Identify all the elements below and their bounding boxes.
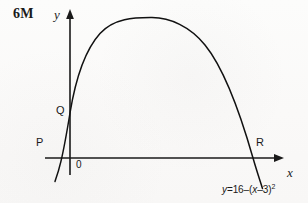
point-label-r: R: [256, 137, 264, 148]
figure-drawing-canvas: [0, 0, 308, 203]
x-axis-arrowhead-icon: [274, 154, 284, 162]
y-axis-label: y: [54, 8, 60, 21]
y-axis: [66, 9, 74, 175]
origin-label: 0: [76, 160, 82, 170]
equation-exponent: 2: [271, 183, 275, 190]
y-axis-arrowhead-icon: [66, 9, 74, 19]
x-axis-label: x: [287, 166, 293, 179]
point-label-q: Q: [56, 105, 65, 116]
point-label-p: P: [36, 137, 43, 148]
parabola-curve: [55, 18, 263, 189]
equation-constant: 16: [233, 184, 244, 195]
parabola-figure: 6M y x P Q R 0 y=16–(x–3)2: [0, 0, 308, 203]
exercise-label: 6M: [13, 7, 34, 21]
equation-caption: y=16–(x–3)2: [222, 185, 275, 195]
